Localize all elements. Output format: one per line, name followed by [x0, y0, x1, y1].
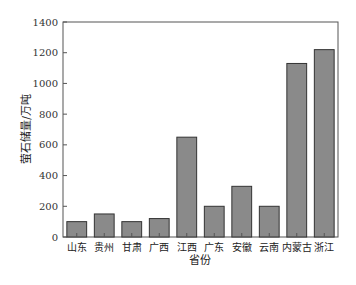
x-category-label: 浙江: [314, 242, 334, 253]
x-category-label: 安徽: [232, 241, 252, 253]
x-category-label: 广西: [149, 242, 169, 253]
x-category-label: 云南: [259, 241, 279, 253]
y-axis-title: 萤石储量/万吨: [19, 94, 33, 164]
bar-4: [177, 137, 197, 237]
y-tick-label: 800: [39, 109, 58, 120]
x-category-label: 山东: [67, 241, 87, 253]
x-category-label: 甘肃: [122, 241, 142, 253]
bar-5: [204, 206, 224, 237]
bar-8: [287, 63, 307, 237]
y-tick-label: 1000: [33, 78, 58, 89]
y-tick-label: 1200: [33, 47, 58, 58]
y-tick-label: 0: [52, 232, 58, 243]
y-tick-label: 200: [39, 201, 58, 212]
x-axis-title: 省份: [189, 254, 211, 267]
bar-9: [314, 50, 334, 237]
y-tick-label: 1400: [33, 17, 58, 28]
x-category-label: 广东: [204, 241, 224, 253]
x-category-label: 内蒙古: [282, 241, 312, 253]
bars-group: [67, 50, 334, 237]
x-category-label: 江西: [177, 242, 197, 253]
bar-chart: 0200400600800100012001400 山东贵州甘肃广西江西广东安徽…: [0, 0, 356, 285]
bar-6: [232, 186, 252, 237]
bar-7: [259, 206, 279, 237]
x-category-label: 贵州: [94, 241, 114, 253]
x-axis-labels: 山东贵州甘肃广西江西广东安徽云南内蒙古浙江: [67, 241, 335, 253]
y-axis-ticks: 0200400600800100012001400: [33, 17, 67, 243]
y-tick-label: 600: [39, 139, 58, 150]
y-tick-label: 400: [39, 170, 58, 181]
